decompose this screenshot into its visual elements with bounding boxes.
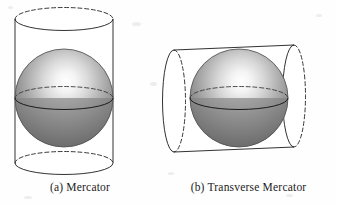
transverse-mercator-diagram (160, 0, 337, 206)
caption-transverse-mercator: (b) Transverse Mercator (160, 181, 337, 193)
caption-mercator: (a) Mercator (0, 181, 160, 193)
mercator-diagram (0, 0, 160, 206)
figure-container: (a) Mercator (0, 0, 337, 206)
panel-transverse-mercator: (b) Transverse Mercator (160, 0, 337, 206)
panel-mercator: (a) Mercator (0, 0, 160, 206)
